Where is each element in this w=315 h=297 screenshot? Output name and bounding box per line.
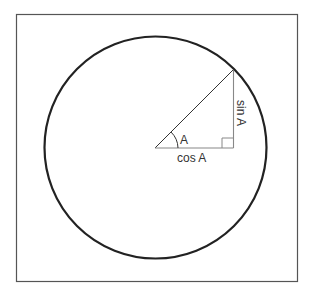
sin-label: sin A <box>234 100 248 126</box>
unit-circle-diagram: A cos A sin A <box>0 0 315 297</box>
angle-label: A <box>180 133 188 147</box>
angle-arc <box>171 132 178 148</box>
right-angle-marker <box>222 138 234 148</box>
cos-label: cos A <box>177 151 206 165</box>
hypotenuse-radius <box>155 70 233 148</box>
